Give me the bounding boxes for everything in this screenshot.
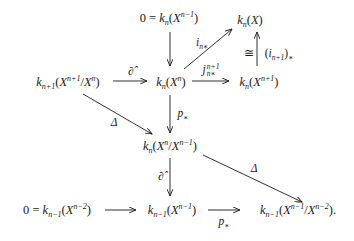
- label-j: j n+1 n∗: [203, 63, 220, 77]
- X: X: [251, 13, 259, 27]
- k-sub: n−1: [153, 210, 166, 219]
- node-top-zero: 0 = kn(Xn−1): [140, 11, 199, 25]
- node-quotient: kn(Xn/Xn−1): [143, 139, 197, 153]
- period: .: [333, 203, 336, 217]
- partial-hat: ∂̂: [158, 170, 164, 182]
- X: X: [283, 203, 291, 217]
- equals: =: [149, 11, 156, 25]
- label-base: j: [203, 63, 206, 75]
- zero: 0: [140, 11, 146, 25]
- k-sub: n: [149, 146, 153, 155]
- label-p-star-bottom: p∗: [219, 215, 230, 227]
- X-sup: n+1: [261, 74, 274, 83]
- label-sub: ∗: [183, 113, 188, 122]
- node-mid-left: kn+1(Xn+1/Xn): [36, 75, 99, 89]
- node-bot-left: 0 = kn−1(Xn−2): [23, 203, 91, 217]
- label-i-n1-star: (in+1)∗: [265, 47, 294, 59]
- label-delta-right: Δ: [251, 162, 258, 174]
- X-sup: n−1: [291, 202, 304, 211]
- X-sup: n−2: [73, 202, 86, 211]
- X: X: [172, 139, 180, 153]
- node-bot-center: kn−1(Xn−1): [148, 203, 196, 217]
- node-top-right: kn(X): [237, 13, 263, 27]
- k-sub: n: [243, 20, 247, 29]
- arrow-delta-left: [83, 94, 152, 134]
- delta: Δ: [111, 116, 118, 128]
- partial-hat: ∂̂: [128, 65, 134, 77]
- zero: 0: [23, 203, 29, 217]
- X-sup: n: [92, 74, 96, 83]
- X: X: [171, 203, 179, 217]
- label-star: ∗: [288, 53, 293, 62]
- node-mid-right: kn(Xn+1): [240, 75, 279, 89]
- k-sub: n: [165, 18, 169, 27]
- label-sub: n∗: [207, 70, 220, 77]
- label-sub: ∗: [224, 221, 229, 230]
- X: X: [59, 75, 67, 89]
- node-mid-center: kn(Xn): [156, 75, 186, 89]
- X-sup: n: [178, 74, 182, 83]
- X-sup: n−1: [179, 138, 192, 147]
- X-sup: n−1: [181, 10, 194, 19]
- k-sub: n−1: [48, 210, 61, 219]
- label-partial-hat-vert: ∂̂: [158, 170, 164, 182]
- X-sup: n−2: [315, 202, 328, 211]
- label-delta-left: Δ: [111, 116, 118, 128]
- isomorphism-symbol: ≅: [244, 47, 254, 59]
- X-sup: n−1: [179, 202, 192, 211]
- label-sub: n+1: [272, 53, 285, 62]
- label-partial-hat-top: ∂̂: [128, 65, 134, 77]
- label-sub: n∗: [199, 42, 208, 51]
- X: X: [173, 11, 181, 25]
- label-p-star-vert: p∗: [178, 107, 189, 119]
- equals: =: [32, 203, 39, 217]
- k-sub: n: [245, 82, 249, 91]
- delta: Δ: [251, 162, 258, 174]
- node-bot-right: kn−1(Xn−1/Xn−2).: [260, 203, 336, 217]
- X-sup: n+1: [67, 74, 80, 83]
- label-i-n-star: in∗: [196, 36, 208, 48]
- label-iso: ≅: [244, 47, 254, 59]
- k-sub: n+1: [42, 82, 55, 91]
- k-sub: n: [162, 82, 166, 91]
- k-sub: n−1: [266, 210, 279, 219]
